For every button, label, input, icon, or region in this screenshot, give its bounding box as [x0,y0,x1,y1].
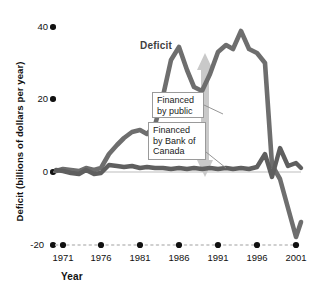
x-tick-label-1981: 1981 [123,253,157,263]
deficit-chart: Deficit (billions of dollars per year) 4… [0,0,309,297]
callout-boc-line2: by Bank of [153,136,202,147]
x-tick-label-1971: 1971 [46,253,80,263]
x-tick-label-1986: 1986 [162,253,196,263]
callout-boc-line3: Canada [153,146,202,157]
callout-public-line2: by public [157,106,200,117]
x-tick-label-2001: 2001 [279,253,309,263]
x-tick-label-1991: 1991 [201,253,235,263]
x-axis-label: Year [61,271,83,282]
callout-boc-line1: Financed [153,125,202,136]
x-tick-label-1996: 1996 [240,253,274,263]
x-tick-label-1976: 1976 [84,253,118,263]
financed-by-bank-of-canada-callout: Financed by Bank of Canada [148,122,206,160]
callout-public-line1: Financed [157,95,200,106]
financed-by-public-callout: Financed by public [152,92,204,118]
deficit-series-label: Deficit [140,40,172,51]
